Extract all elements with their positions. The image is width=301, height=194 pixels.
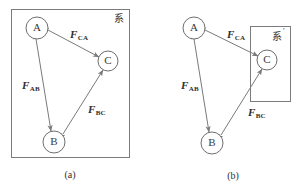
figure-canvas: 系 A B C FCA FAB <box>0 0 301 194</box>
system-label-a: 系 <box>114 13 124 24</box>
node-b-panel-b: B <box>201 132 223 154</box>
node-c-panel-a: C <box>98 51 118 71</box>
node-label-c: C <box>104 54 111 66</box>
system-label-b: 系 <box>272 31 282 42</box>
force-label-bc-a: FBC <box>87 103 106 117</box>
panel-caption-a: (a) <box>64 169 75 181</box>
force-label-ab-b: FAB <box>180 79 199 93</box>
node-label-c: C <box>263 53 270 65</box>
system-label-b-prime: ′ <box>283 27 285 36</box>
physics-force-diagram-figure: 系 A B C FCA FAB <box>0 0 301 194</box>
node-label-b: B <box>50 135 57 147</box>
force-label-ca-a: FCA <box>69 28 88 42</box>
force-label-ab-a: FAB <box>21 79 40 93</box>
node-b-panel-a: B <box>43 131 65 153</box>
node-label-a: A <box>33 21 41 33</box>
node-a-panel-b: A <box>183 17 205 39</box>
node-label-a: A <box>190 21 198 33</box>
node-c-panel-b: C <box>257 50 277 70</box>
panel-b: 系 ′ A B C FCA FAB FBC <box>180 17 291 182</box>
panel-a: 系 A B C FCA FAB <box>12 10 130 182</box>
force-label-ca-b: FCA <box>226 28 245 42</box>
force-label-bc-b: FBC <box>247 106 266 120</box>
node-label-b: B <box>208 136 215 148</box>
force-line-bc-a <box>63 70 103 134</box>
node-a-panel-a: A <box>26 17 48 39</box>
panel-caption-b: (b) <box>227 170 239 182</box>
